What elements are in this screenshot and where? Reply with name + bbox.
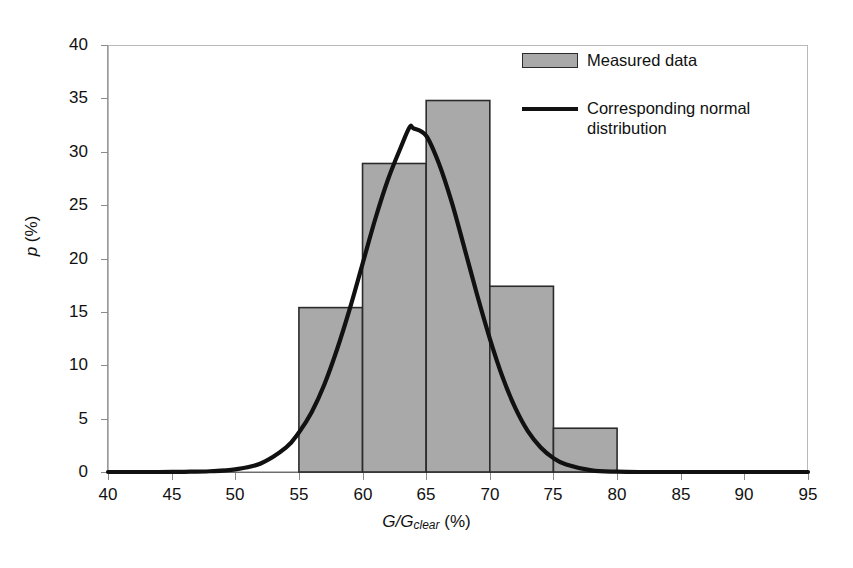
y-axis-symbol: p: [22, 247, 41, 256]
legend-label: Measured data: [587, 50, 697, 70]
legend-item-measured-data: Measured data: [522, 50, 812, 70]
bar-swatch-icon: [522, 53, 578, 68]
line-swatch-icon: [522, 107, 578, 111]
chart-figure: 0510152025303540 40455055606570758085909…: [0, 0, 853, 568]
x-axis-subscript: clear: [413, 518, 439, 532]
y-axis-unit: (%): [22, 216, 41, 242]
x-axis-unit: (%): [444, 512, 470, 531]
x-axis-title: G/Gclear (%): [0, 512, 853, 532]
legend-label: Corresponding normal distribution: [587, 98, 750, 138]
y-axis-title-wrap: p (%): [36, 0, 38, 568]
histogram-bar: [490, 286, 554, 472]
histogram-bar: [363, 163, 427, 472]
y-axis-title: p (%): [22, 216, 42, 257]
legend: Measured data Corresponding normal distr…: [522, 50, 812, 166]
legend-item-normal-distribution: Corresponding normal distribution: [522, 98, 812, 138]
x-axis-symbol: G/G: [382, 512, 413, 531]
histogram-bar: [299, 308, 363, 472]
